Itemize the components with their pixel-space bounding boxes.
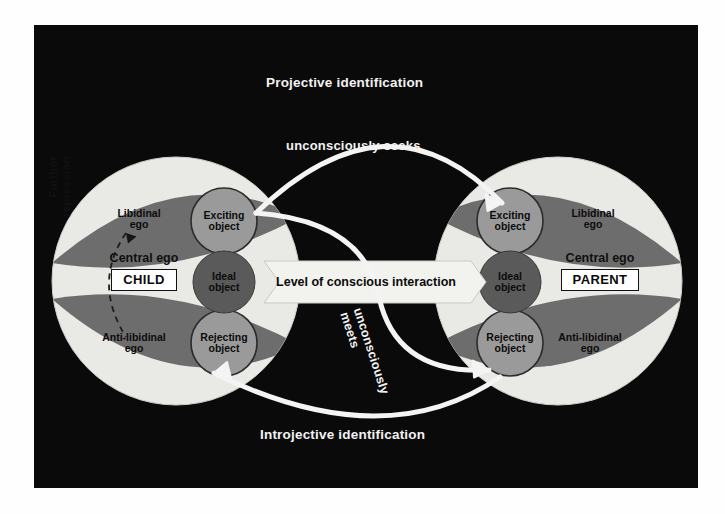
child-exciting-object-line1: Exciting [204,209,245,221]
child-libidinal-ego-line1: Libidinal [117,207,160,219]
child-anti-libidinal-ego-line1: Anti-libidinal [102,331,166,343]
child-libidinal-ego-line2: ego [130,218,149,230]
child-central-ego-label: Central ego [86,251,202,265]
child-rejecting-object-line1: Rejecting [200,331,247,343]
child-exciting-object-label: Exciting object [186,210,262,233]
parent-anti-libidinal-ego-line2: ego [581,342,600,354]
parent-identity-box: PARENT [561,269,640,291]
diagram-panel: Projective identification unconsciously … [34,25,698,488]
parent-libidinal-ego-label: Libidinal ego [550,208,636,231]
diagram-page: Projective identification unconsciously … [0,0,725,514]
parent-rejecting-object-line1: Rejecting [486,331,533,343]
parent-exciting-object-line1: Exciting [490,209,531,221]
parent-ideal-object-line1: Ideal [498,270,522,282]
child-ideal-object-line2: object [209,281,240,293]
parent-central-ego-label: Central ego [542,251,658,265]
child-libidinal-ego-label: Libidinal ego [96,208,182,231]
child-rejecting-object-label: Rejecting object [186,332,262,355]
parent-libidinal-ego-line2: ego [584,218,603,230]
parent-rejecting-object-line2: object [495,342,526,354]
child-central-ego-group: Central ego CHILD [86,251,202,291]
parent-exciting-object-label: Exciting object [472,210,548,233]
parent-anti-libidinal-ego-line1: Anti-libidinal [558,331,622,343]
parent-exciting-object-line2: object [495,220,526,232]
child-identity-box: CHILD [111,269,177,291]
child-anti-libidinal-ego-label: Anti-libidinal ego [78,332,190,355]
parent-libidinal-ego-line1: Libidinal [571,207,614,219]
parent-anti-libidinal-ego-label: Anti-libidinal ego [534,332,646,355]
child-anti-libidinal-ego-line2: ego [125,342,144,354]
parent-central-ego-group: Central ego PARENT [542,251,658,291]
child-rejecting-object-line2: object [209,342,240,354]
parent-ideal-object-label: Ideal object [472,271,548,294]
parent-ideal-object-line2: object [495,281,526,293]
child-ideal-object-line1: Ideal [212,270,236,282]
parent-rejecting-object-label: Rejecting object [472,332,548,355]
child-exciting-object-line2: object [209,220,240,232]
